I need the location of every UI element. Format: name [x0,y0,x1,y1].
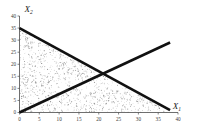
stipple-dot [109,97,110,98]
stipple-dot [40,82,41,83]
stipple-dot [89,105,90,106]
stipple-dot [27,77,28,78]
stipple-dot [104,83,105,84]
stipple-dot [39,42,40,43]
stipple-dot [51,55,52,56]
stipple-dot [28,48,29,49]
stipple-dot [80,109,81,110]
stipple-dot [141,96,142,97]
stipple-dot [72,63,73,64]
stipple-dot [34,76,35,77]
stipple-dot [79,101,80,102]
stipple-dot [35,83,36,84]
stipple-dot [58,68,59,69]
stipple-dot [70,81,71,82]
stipple-dot [72,101,73,102]
stipple-dot [29,64,30,65]
stipple-dot [44,50,45,51]
stipple-dot [103,103,104,104]
stipple-dot [42,94,43,95]
stipple-dot [118,90,119,91]
stipple-dot [34,61,35,62]
y-axis-label-subscript: 2 [30,9,33,15]
stipple-dot [49,52,50,53]
stipple-dot [80,65,81,66]
stipple-dot [38,43,39,44]
stipple-dot [34,87,35,88]
stipple-dot [23,96,24,97]
stipple-dot [81,108,82,109]
stipple-dot [116,111,117,112]
stipple-dot [47,105,48,106]
stipple-dot [41,78,42,79]
stipple-dot [95,85,96,86]
stipple-dot [27,62,28,63]
stipple-dot [115,98,116,99]
stipple-dot [77,75,78,76]
stipple-dot [61,65,62,66]
stipple-dot [31,101,32,102]
stipple-dot [35,94,36,95]
stipple-dot [91,72,92,73]
stipple-dot [98,87,99,88]
stipple-dot [112,83,113,84]
stipple-dot [100,100,101,101]
stipple-dot [53,59,54,60]
stipple-dot [155,105,156,106]
stipple-dot [29,46,30,47]
stipple-dot [102,93,103,94]
stipple-dot [23,36,24,37]
stipple-dot [62,55,63,56]
stipple-dot [34,52,35,53]
stipple-dot [40,55,41,56]
stipple-dot [25,46,26,47]
stipple-dot [28,42,29,43]
stipple-dot [114,93,115,94]
stipple-dot [38,109,39,110]
stipple-dot [73,61,74,62]
stipple-dot [23,49,24,50]
stipple-dot [45,60,46,61]
stipple-dot [95,109,96,110]
y-tick-label: 10 [11,85,17,91]
stipple-dot [33,87,34,88]
stipple-dot [25,77,26,78]
stipple-dot [57,107,58,108]
stipple-dot [32,71,33,72]
stipple-dot [139,108,140,109]
stipple-dot [51,85,52,86]
stipple-dot [114,102,115,103]
stipple-dot [75,65,76,66]
stipple-dot [49,49,50,50]
stipple-dot [64,104,65,105]
stipple-dot [31,110,32,111]
stipple-dot [36,71,37,72]
stipple-dot [44,92,45,93]
stipple-dot [78,109,79,110]
stipple-dot [33,62,34,63]
stipple-dot [60,56,61,57]
stipple-dot [52,103,53,104]
stipple-dot [30,103,31,104]
stipple-dot [25,92,26,93]
stipple-dot [72,84,73,85]
stipple-dot [61,99,62,100]
y-tick-label: 40 [11,13,17,19]
stipple-dot [148,109,149,110]
stipple-dot [129,90,130,91]
stipple-dot [107,79,108,80]
stipple-dot [24,79,25,80]
stipple-dot [138,95,139,96]
stipple-dot [40,74,41,75]
stipple-dot [100,83,101,84]
stipple-dot [22,107,23,108]
stipple-dot [81,105,82,106]
stipple-dot [126,88,127,89]
stipple-dot [26,39,27,40]
stipple-dot [32,66,33,67]
stipple-dot [42,53,43,54]
stipple-dot [42,78,43,79]
stipple-dot [89,93,90,94]
stipple-dot [108,109,109,110]
stipple-dot [62,100,63,101]
